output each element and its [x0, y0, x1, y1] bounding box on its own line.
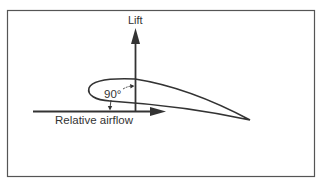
angle-pointer-lower-head-icon [108, 106, 112, 111]
angle-label: 90° [104, 88, 121, 100]
diagram-canvas: Lift Relative airflow 90° [0, 0, 321, 182]
lift-label: Lift [128, 14, 143, 26]
diagram-frame [8, 11, 315, 177]
lift-arrow-head-icon [131, 28, 140, 44]
airflow-arrow-head-icon [150, 107, 166, 116]
relative-airflow-label: Relative airflow [55, 114, 134, 126]
angle-pointer-upper-head-icon [130, 84, 135, 89]
lift-diagram: Lift Relative airflow 90° [0, 0, 321, 182]
